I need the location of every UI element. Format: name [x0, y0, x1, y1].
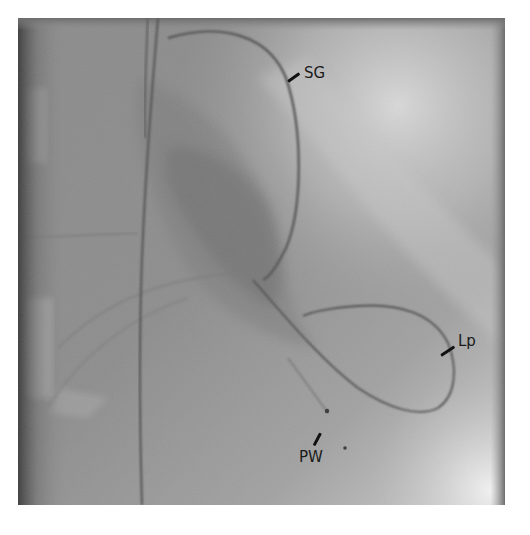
xray-graphic	[18, 18, 505, 505]
label-sg: SG	[304, 66, 325, 81]
label-lp: Lp	[458, 334, 476, 349]
figure: SG Lp PW	[0, 0, 530, 535]
fluoroscopy-image: SG Lp PW	[18, 18, 505, 505]
label-pw: PW	[299, 450, 323, 465]
